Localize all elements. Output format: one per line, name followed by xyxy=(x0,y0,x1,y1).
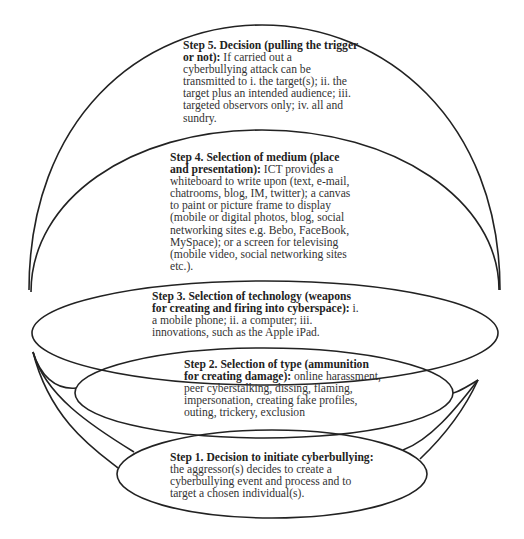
step1-box: Step 1. Decision to initiate cyberbullyi… xyxy=(170,452,380,500)
step3-title: Step 3. Selection of technology (weapons… xyxy=(152,290,353,315)
step4-text: ICT provides a whiteboard to write upon … xyxy=(170,163,350,273)
step4-box: Step 4. Selection of medium (place and p… xyxy=(170,152,360,273)
step1-title: Step 1. Decision to initiate cyberbullyi… xyxy=(170,451,374,464)
step1-text: the aggressor(s) decides to create a cyb… xyxy=(170,463,351,500)
step2-box: Step 2. Selection of type (ammunition fo… xyxy=(184,359,384,419)
step5-box: Step 5. Decision (pulling the trigger or… xyxy=(183,40,358,125)
step3-box: Step 3. Selection of technology (weapons… xyxy=(152,291,362,339)
